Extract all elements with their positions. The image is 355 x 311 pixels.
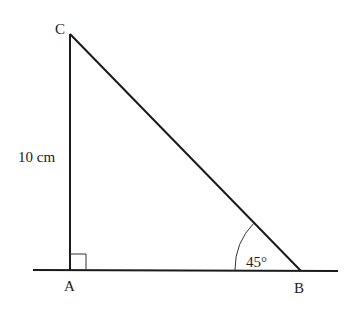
triangle-diagram: C A B 10 cm 45° bbox=[0, 0, 355, 311]
right-angle-marker bbox=[70, 254, 86, 270]
hypotenuse-cb bbox=[70, 34, 301, 271]
vertex-label-c: C bbox=[55, 21, 65, 37]
baseline bbox=[33, 270, 338, 271]
vertex-label-a: A bbox=[64, 278, 75, 294]
side-length-label: 10 cm bbox=[18, 149, 55, 165]
vertex-label-b: B bbox=[294, 280, 304, 296]
angle-label: 45° bbox=[246, 254, 267, 270]
